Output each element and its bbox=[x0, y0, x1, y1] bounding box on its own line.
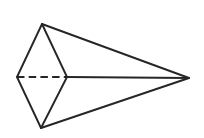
edge-front-corner-to-right-apex bbox=[67, 77, 189, 78]
figure-canvas: Bipyramid line drawing Wireframe line dr… bbox=[0, 0, 204, 138]
vertex-front-corner bbox=[63, 73, 71, 81]
vertex-left-corner bbox=[13, 73, 21, 81]
vertex-top-apex bbox=[38, 20, 46, 28]
bipyramid-diagram: Bipyramid line drawing Wireframe line dr… bbox=[0, 0, 204, 138]
face-group bbox=[17, 24, 189, 128]
vertex-bottom-apex bbox=[37, 124, 45, 132]
vertex-right-apex bbox=[185, 74, 193, 82]
